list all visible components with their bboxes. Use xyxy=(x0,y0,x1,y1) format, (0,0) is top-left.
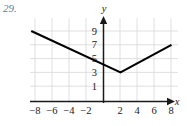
y-axis-name-label: y xyxy=(101,3,107,14)
x-tick-label--8: −8 xyxy=(29,105,40,116)
graph-figure: 29. xyxy=(0,0,187,126)
x-axis-name-label: x xyxy=(174,96,180,107)
y-tick-label-7: 7 xyxy=(92,39,97,50)
x-tick-labels: −8 −6 −4 −2 2 4 6 8 xyxy=(29,105,173,116)
x-tick-label-8: 8 xyxy=(168,105,173,116)
y-tick-label-3: 3 xyxy=(92,67,97,78)
x-tick-label-4: 4 xyxy=(134,105,140,116)
x-tick-label--4: −4 xyxy=(63,105,75,116)
plot-svg: x y −8 −6 −4 −2 2 4 6 8 1 3 5 7 9 xyxy=(0,0,187,126)
y-tick-label-1: 1 xyxy=(92,81,97,92)
coordinate-plane: x y −8 −6 −4 −2 2 4 6 8 1 3 5 7 9 xyxy=(0,0,187,126)
x-tick-label--6: −6 xyxy=(46,105,57,116)
y-axis xyxy=(100,16,107,103)
y-axis-arrowhead xyxy=(100,16,107,24)
x-tick-label-2: 2 xyxy=(117,105,122,116)
x-tick-label--2: −2 xyxy=(80,105,91,116)
x-tick-label-6: 6 xyxy=(151,105,156,116)
y-tick-label-9: 9 xyxy=(92,26,97,37)
